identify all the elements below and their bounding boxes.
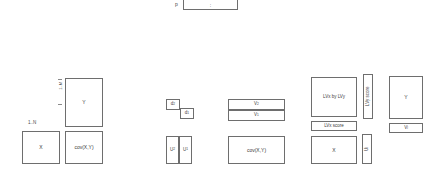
- middle-cov-matrix: cov(X,Y): [228, 136, 285, 164]
- middle-v2-box: V2: [228, 99, 285, 110]
- right-lvy-score-box: LVy score: [363, 74, 373, 119]
- right-uj-vector: Uj: [362, 134, 372, 164]
- top-p-label: p: [175, 2, 178, 7]
- tick-top-left: [58, 79, 62, 80]
- middle-d2-box: d2: [166, 99, 180, 110]
- right-lvx-by-lvy-box: LVx by LVy: [311, 77, 357, 117]
- d2-sub: 2: [173, 103, 175, 106]
- middle-d1-box: d1: [180, 108, 194, 119]
- middle-v1-box: V1: [228, 110, 285, 121]
- right-vj-vector: Vj: [389, 123, 423, 133]
- uj-sub: j: [365, 147, 368, 148]
- diagram-canvas: p : 1..M 1..N Y X cov(X,Y) d2 d1 V2 V1 U…: [0, 0, 426, 180]
- right-lvx-score-box: LVx score: [311, 121, 357, 131]
- middle-u2-box: U2: [166, 136, 179, 164]
- vj-sub: j: [407, 126, 408, 129]
- u2-sub: 2: [173, 148, 175, 151]
- uj-text: U: [365, 148, 370, 151]
- right-y-matrix: Y: [389, 76, 423, 119]
- top-box: :: [183, 0, 238, 10]
- v1-sub: 1: [257, 114, 259, 117]
- middle-u1-box: U1: [179, 136, 192, 164]
- left-cov-matrix: cov(X,Y): [65, 131, 103, 164]
- left-y-matrix: Y: [65, 78, 103, 127]
- d1-sub: 1: [187, 112, 189, 115]
- right-x-matrix: X: [311, 136, 357, 164]
- left-col-label: 1..M: [59, 82, 63, 90]
- left-row-label: 1..N: [28, 121, 36, 126]
- left-x-matrix: X: [22, 131, 60, 164]
- v2-sub: 2: [257, 103, 259, 106]
- u1-sub: 1: [186, 148, 188, 151]
- tick-bottom-left: [58, 104, 62, 105]
